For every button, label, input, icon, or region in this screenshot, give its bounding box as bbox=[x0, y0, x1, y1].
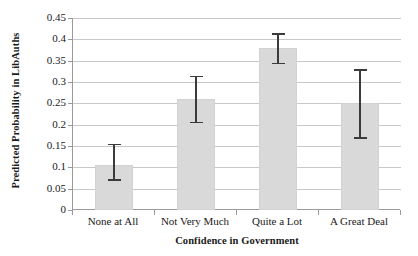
x-tick-label: None at All bbox=[72, 215, 154, 227]
x-axis-end-mark bbox=[72, 210, 73, 215]
x-axis-ticks: None at AllNot Very MuchQuite a LotA Gre… bbox=[0, 0, 418, 256]
x-tick-label: Quite a Lot bbox=[236, 215, 318, 227]
x-tick-label: A Great Deal bbox=[318, 215, 400, 227]
x-tick-label: Not Very Much bbox=[154, 215, 236, 227]
x-axis-end-mark bbox=[400, 210, 401, 215]
bar-chart: Predicted Probability in LibAuths 00.050… bbox=[0, 0, 418, 256]
x-axis-title: Confidence in Government bbox=[72, 235, 402, 246]
